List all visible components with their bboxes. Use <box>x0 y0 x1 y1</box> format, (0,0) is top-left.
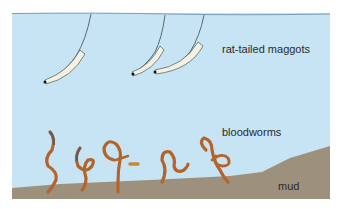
pond-diagram <box>0 0 342 209</box>
label-rat-tailed-maggots: rat-tailed maggots <box>222 43 310 55</box>
label-mud: mud <box>278 180 299 192</box>
label-bloodworms: bloodworms <box>222 126 281 138</box>
